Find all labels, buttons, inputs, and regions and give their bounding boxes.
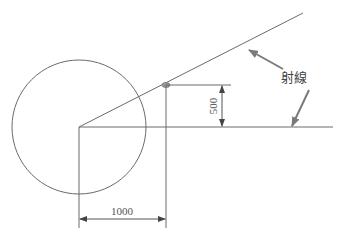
leader-arrow-lower: [292, 90, 309, 126]
ray-callout: 射線: [249, 50, 309, 126]
dimension-500-label: 500: [207, 97, 219, 114]
dimension-1000: 1000: [80, 205, 165, 219]
upper-ray: [79, 13, 303, 127]
ray-callout-label: 射線: [281, 70, 307, 85]
dimension-1000-label: 1000: [111, 205, 134, 217]
leader-arrow-upper: [249, 50, 283, 69]
ray-diagram: 500 1000 射線: [0, 0, 343, 236]
dimension-500: 500: [207, 86, 222, 126]
